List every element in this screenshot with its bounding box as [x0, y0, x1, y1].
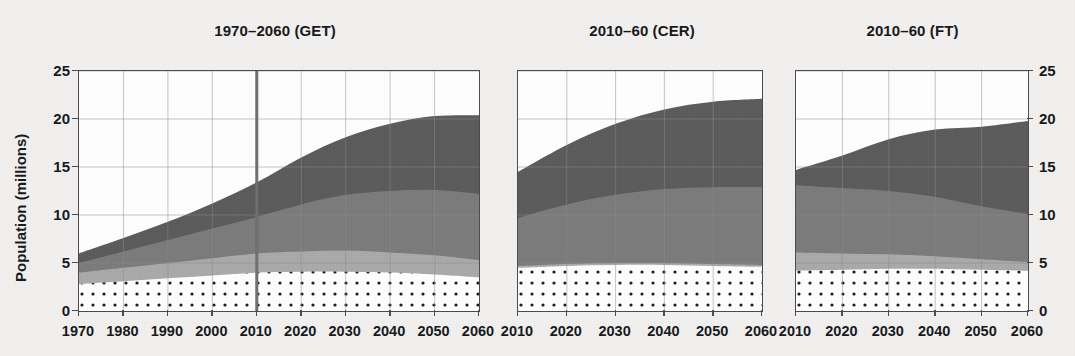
x-tick-mark — [122, 310, 123, 316]
y-tick-mark — [1027, 118, 1033, 119]
x-tick-label: 2040 — [647, 324, 679, 339]
x-tick-label: 2040 — [918, 324, 950, 339]
x-tick-mark — [78, 310, 79, 316]
x-tick-label: 2030 — [872, 324, 904, 339]
y-tick-mark — [1027, 310, 1033, 311]
y-tick-label: 0 — [62, 303, 70, 318]
figure-root: Population (millions) 1970–2060 (GET) 05… — [0, 0, 1075, 356]
x-tick-mark — [256, 310, 257, 316]
x-tick-mark — [663, 310, 664, 316]
y-tick-mark — [72, 166, 78, 167]
x-tick-label: 2030 — [598, 324, 630, 339]
y-tick-mark — [1027, 166, 1033, 167]
panel-ft-y-tick-labels: 0510152025 — [1039, 70, 1075, 312]
x-tick-label: 1990 — [151, 324, 183, 339]
x-tick-mark — [517, 310, 518, 316]
x-tick-mark — [888, 310, 889, 316]
x-tick-mark — [934, 310, 935, 316]
panel-get-x-tick-labels: 1970198019902000201020202030204020502060 — [78, 322, 480, 342]
panel-get: 1970–2060 (GET) 0510152025 1970198019902… — [30, 22, 480, 342]
x-tick-mark — [300, 310, 301, 316]
y-tick-label: 10 — [1039, 207, 1056, 222]
y-tick-label: 5 — [1039, 255, 1047, 270]
x-tick-mark — [761, 310, 762, 316]
x-tick-mark — [615, 310, 616, 316]
x-tick-label: 2060 — [1011, 324, 1043, 339]
y-tick-mark — [72, 214, 78, 215]
x-tick-label: 2010 — [779, 324, 811, 339]
panel-cer-x-tick-labels: 201020202030204020502060 — [517, 322, 763, 342]
panel-ft-title: 2010–60 (FT) — [795, 22, 1030, 39]
y-tick-mark — [1027, 70, 1033, 71]
x-tick-label: 2020 — [284, 324, 316, 339]
x-tick-mark — [712, 310, 713, 316]
panel-ft-ticks — [795, 70, 1029, 312]
x-tick-mark — [981, 310, 982, 316]
y-tick-mark — [1027, 214, 1033, 215]
panel-get-y-tick-labels: 0510152025 — [30, 70, 70, 312]
y-tick-label: 15 — [53, 159, 70, 174]
y-tick-label: 20 — [1039, 111, 1056, 126]
y-tick-label: 20 — [53, 111, 70, 126]
panel-get-title: 1970–2060 (GET) — [70, 22, 480, 39]
x-tick-label: 2010 — [240, 324, 272, 339]
x-tick-mark — [434, 310, 435, 316]
x-tick-mark — [841, 310, 842, 316]
x-tick-mark — [389, 310, 390, 316]
y-tick-mark — [72, 118, 78, 119]
x-tick-mark — [795, 310, 796, 316]
y-axis-title: Population (millions) — [12, 134, 29, 282]
panel-cer-title: 2010–60 (CER) — [517, 22, 767, 39]
y-tick-mark — [72, 262, 78, 263]
x-tick-label: 2060 — [745, 324, 777, 339]
y-tick-mark — [1027, 262, 1033, 263]
panel-get-ticks — [78, 70, 480, 312]
x-tick-mark — [478, 310, 479, 316]
x-tick-mark — [167, 310, 168, 316]
x-tick-label: 2040 — [373, 324, 405, 339]
y-tick-label: 25 — [53, 63, 70, 78]
y-tick-label: 0 — [1039, 303, 1047, 318]
x-tick-label: 2050 — [417, 324, 449, 339]
y-tick-label: 15 — [1039, 159, 1056, 174]
y-tick-label: 25 — [1039, 63, 1056, 78]
y-tick-label: 5 — [62, 255, 70, 270]
x-tick-label: 2050 — [696, 324, 728, 339]
panel-cer: 2010–60 (CER) 201020202030204020502060 — [517, 22, 767, 342]
x-tick-mark — [211, 310, 212, 316]
y-tick-label: 10 — [53, 207, 70, 222]
panel-ft: 2010–60 (FT) 0510152025 2010202020302040… — [795, 22, 1075, 342]
x-tick-label: 2020 — [825, 324, 857, 339]
panel-cer-ticks — [517, 70, 763, 312]
x-tick-label: 2060 — [462, 324, 494, 339]
x-tick-label: 1970 — [62, 324, 94, 339]
x-tick-mark — [345, 310, 346, 316]
x-tick-label: 1980 — [106, 324, 138, 339]
x-tick-label: 2030 — [329, 324, 361, 339]
x-tick-label: 2050 — [964, 324, 996, 339]
y-tick-mark — [72, 310, 78, 311]
x-tick-mark — [566, 310, 567, 316]
x-tick-label: 2010 — [501, 324, 533, 339]
x-tick-label: 2000 — [195, 324, 227, 339]
panel-ft-x-tick-labels: 201020202030204020502060 — [795, 322, 1029, 342]
x-tick-label: 2020 — [550, 324, 582, 339]
y-tick-mark — [72, 70, 78, 71]
